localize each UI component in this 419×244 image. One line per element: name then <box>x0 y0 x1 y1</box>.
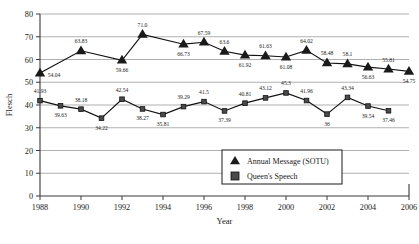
data-point-queens-1994 <box>161 112 166 117</box>
data-label-queens-1993: 38.27 <box>136 115 149 121</box>
data-point-sotu-2001 <box>301 45 311 54</box>
data-label-queens-2004: 39.54 <box>362 113 375 119</box>
data-point-queens-1999 <box>263 96 268 101</box>
data-point-queens-1993 <box>140 107 145 112</box>
data-point-sotu-2005 <box>383 64 393 73</box>
x-tick-label-1998: 1998 <box>237 203 253 212</box>
data-point-sotu-1996 <box>199 37 209 46</box>
y-axis-title: Flesch <box>4 93 14 116</box>
data-point-queens-2000 <box>284 91 289 96</box>
data-label-queens-1996: 41.5 <box>199 89 209 95</box>
data-label-queens-1997: 37.39 <box>218 117 231 123</box>
x-tick-label-1990: 1990 <box>73 203 89 212</box>
data-point-queens-1998 <box>243 101 248 106</box>
data-label-sotu-1988: 54.04 <box>48 72 61 78</box>
x-axis-title: Year <box>217 216 233 226</box>
data-label-sotu-1995: 66.73 <box>177 51 190 57</box>
data-point-queens-1997 <box>222 109 227 114</box>
series-line-queens <box>40 93 389 118</box>
data-label-queens-1999: 43.12 <box>259 85 272 91</box>
chart-canvas: 0102030405060708019881990199219941996199… <box>0 0 419 244</box>
data-point-queens-1995 <box>181 104 186 109</box>
data-point-sotu-1999 <box>260 50 270 59</box>
data-label-sotu-1993: 71.0 <box>138 22 148 28</box>
data-label-queens-2005: 37.46 <box>382 117 395 123</box>
data-label-queens-1995: 39.29 <box>177 94 190 100</box>
data-point-sotu-2002 <box>322 58 332 67</box>
x-tick-label-1992: 1992 <box>114 203 130 212</box>
data-label-sotu-1999: 61.63 <box>259 43 272 49</box>
data-point-queens-1991 <box>99 116 104 121</box>
data-point-queens-2004 <box>366 104 371 109</box>
data-point-sotu-1993 <box>137 29 147 38</box>
data-label-sotu-2001: 64.02 <box>300 38 313 44</box>
data-label-queens-2000: 45.3 <box>281 80 291 86</box>
y-tick-label-80: 80 <box>25 10 33 19</box>
data-label-sotu-1996: 67.59 <box>198 30 211 36</box>
x-tick-label-2002: 2002 <box>319 203 335 212</box>
data-label-queens-2001: 41.96 <box>300 88 313 94</box>
data-label-queens-1998: 40.81 <box>239 91 252 97</box>
y-tick-label-10: 10 <box>25 169 33 178</box>
data-point-queens-2001 <box>304 98 309 103</box>
data-label-queens-1994: 35.81 <box>157 121 170 127</box>
data-point-queens-1992 <box>120 97 125 102</box>
data-label-queens-1989: 39.63 <box>54 112 67 118</box>
data-point-queens-1996 <box>202 99 207 104</box>
data-label-queens-1990: 38.18 <box>75 97 88 103</box>
x-tick-label-1994: 1994 <box>155 203 171 212</box>
data-label-sotu-1997: 63.6 <box>220 39 230 45</box>
data-point-queens-1990 <box>79 107 84 112</box>
y-tick-label-60: 60 <box>25 56 33 65</box>
legend-label-queens[interactable]: Queen's Speech <box>247 172 298 181</box>
legend-label-sotu[interactable]: Annual Message (SOTU) <box>247 157 329 166</box>
y-tick-label-30: 30 <box>25 124 33 133</box>
x-tick-label-2004: 2004 <box>360 203 376 212</box>
data-label-sotu-1990: 63.83 <box>75 38 88 44</box>
data-label-sotu-2006: 54.75 <box>403 78 416 84</box>
y-tick-label-50: 50 <box>25 78 33 87</box>
data-label-sotu-1992: 59.66 <box>116 67 129 73</box>
data-point-queens-2002 <box>325 112 330 117</box>
x-tick-label-2000: 2000 <box>278 203 294 212</box>
x-tick-label-1988: 1988 <box>32 203 48 212</box>
data-label-sotu-2004: 56.63 <box>362 74 375 80</box>
data-label-queens-1988: 41.93 <box>34 88 47 94</box>
data-label-queens-1991: 34.22 <box>95 125 108 131</box>
data-point-queens-2005 <box>386 108 391 113</box>
data-point-queens-2003 <box>345 95 350 100</box>
y-tick-label-40: 40 <box>25 101 33 110</box>
flesch-readability-chart: 0102030405060708019881990199219941996199… <box>0 0 419 244</box>
data-label-sotu-2005: 55.81 <box>382 57 395 63</box>
data-point-queens-1989 <box>58 104 63 109</box>
data-point-sotu-2006 <box>404 66 414 75</box>
data-label-sotu-1998: 61.92 <box>239 62 252 68</box>
data-label-sotu-2000: 61.08 <box>280 64 293 70</box>
x-tick-label-2006: 2006 <box>401 203 417 212</box>
data-point-sotu-1990 <box>76 45 86 54</box>
data-point-sotu-1988 <box>35 68 45 77</box>
data-label-sotu-2002: 58.48 <box>321 50 334 56</box>
x-tick-label-1996: 1996 <box>196 203 212 212</box>
y-tick-label-0: 0 <box>29 192 33 201</box>
legend-marker-square <box>231 172 239 180</box>
data-label-queens-2003: 43.34 <box>341 85 354 91</box>
y-tick-label-70: 70 <box>25 33 33 42</box>
y-tick-label-20: 20 <box>25 147 33 156</box>
data-label-sotu-2003: 58.1 <box>343 51 353 57</box>
data-label-queens-1992: 42.54 <box>116 87 129 93</box>
data-label-queens-2002: 36 <box>324 121 330 127</box>
data-point-queens-1988 <box>38 98 43 103</box>
